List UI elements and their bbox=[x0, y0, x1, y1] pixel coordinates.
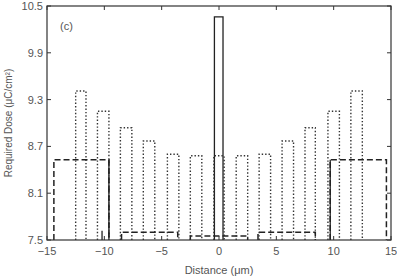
series-dashed bbox=[54, 160, 387, 240]
axis-ticks: −15−10−50510157.58.18.79.39.910.5 bbox=[22, 0, 397, 257]
dose-bar bbox=[143, 141, 154, 240]
plot-frame bbox=[47, 6, 391, 240]
dose-bar bbox=[259, 154, 270, 240]
dose-bar bbox=[282, 141, 293, 240]
dose-bar bbox=[258, 232, 315, 240]
x-tick-label: −10 bbox=[95, 245, 114, 257]
y-axis-label: Required Dose (μC/cm²) bbox=[3, 69, 14, 178]
dose-bar bbox=[190, 156, 201, 240]
y-tick-label: 7.5 bbox=[28, 234, 43, 246]
chart-canvas: −15−10−50510157.58.18.79.39.910.5 (c) Di… bbox=[0, 0, 397, 279]
x-tick-label: 10 bbox=[328, 245, 340, 257]
y-tick-label: 8.1 bbox=[28, 187, 43, 199]
dose-bar bbox=[305, 128, 315, 240]
y-tick-label: 9.9 bbox=[28, 47, 43, 59]
dose-bar bbox=[351, 91, 362, 240]
dose-bar bbox=[122, 232, 178, 240]
dose-bar bbox=[330, 160, 386, 240]
y-tick-label: 10.5 bbox=[22, 0, 43, 12]
series-dotted bbox=[76, 91, 363, 240]
dose-bar bbox=[167, 154, 178, 240]
dose-bar bbox=[236, 156, 247, 240]
dose-bar bbox=[97, 111, 108, 240]
x-tick-label: 5 bbox=[273, 245, 279, 257]
series-solid bbox=[102, 17, 330, 240]
panel-label: (c) bbox=[60, 20, 73, 32]
dose-profile-chart: −15−10−50510157.58.18.79.39.910.5 (c) Di… bbox=[0, 0, 397, 279]
dose-bar bbox=[120, 128, 131, 240]
dose-bar bbox=[76, 91, 86, 240]
dose-bar bbox=[214, 17, 223, 240]
dose-bar bbox=[54, 160, 109, 240]
series-layer bbox=[54, 17, 387, 240]
y-tick-label: 8.7 bbox=[28, 140, 43, 152]
x-tick-label: 0 bbox=[216, 245, 222, 257]
x-axis-label: Distance (μm) bbox=[185, 264, 254, 276]
y-tick-label: 9.3 bbox=[28, 94, 43, 106]
x-tick-label: 15 bbox=[385, 245, 397, 257]
x-tick-label: −5 bbox=[155, 245, 168, 257]
x-tick-label: −15 bbox=[38, 245, 57, 257]
